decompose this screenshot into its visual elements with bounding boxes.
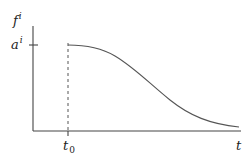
- y-tick-label: ai: [11, 36, 23, 51]
- diagram: fi ai t0 t: [0, 0, 250, 160]
- y-axis-label-base: f: [13, 13, 18, 28]
- x-tick-label: t0: [63, 139, 75, 155]
- diagram-canvas: [0, 0, 250, 160]
- y-tick-label-sup: i: [20, 35, 23, 45]
- x-axis-label-text: t: [236, 138, 241, 153]
- y-tick-label-base: a: [11, 37, 19, 52]
- decay-curve: [68, 45, 239, 127]
- y-axis-label: fi: [13, 12, 22, 27]
- y-axis-label-sup: i: [19, 11, 22, 21]
- x-tick-label-sub: 0: [69, 145, 75, 155]
- x-tick-label-base: t: [63, 138, 68, 153]
- x-axis-label: t: [236, 139, 241, 152]
